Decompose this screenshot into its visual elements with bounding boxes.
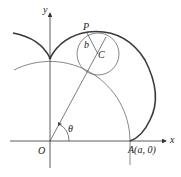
point-p-label: P [83, 22, 89, 32]
point-a-label: A(a, 0) [128, 145, 156, 155]
y-axis-label: y [43, 5, 47, 15]
cusp-point [49, 57, 52, 60]
origin-label: O [38, 146, 45, 156]
center-c-label: C [98, 50, 105, 60]
x-axis-label: x [170, 135, 174, 145]
angle-theta-label: θ [68, 124, 73, 134]
epicycloid-diagram: y x O P b C θ A(a, 0) [0, 0, 181, 177]
fixed-circle-arc [14, 61, 130, 165]
radius-b-label: b [84, 40, 89, 50]
